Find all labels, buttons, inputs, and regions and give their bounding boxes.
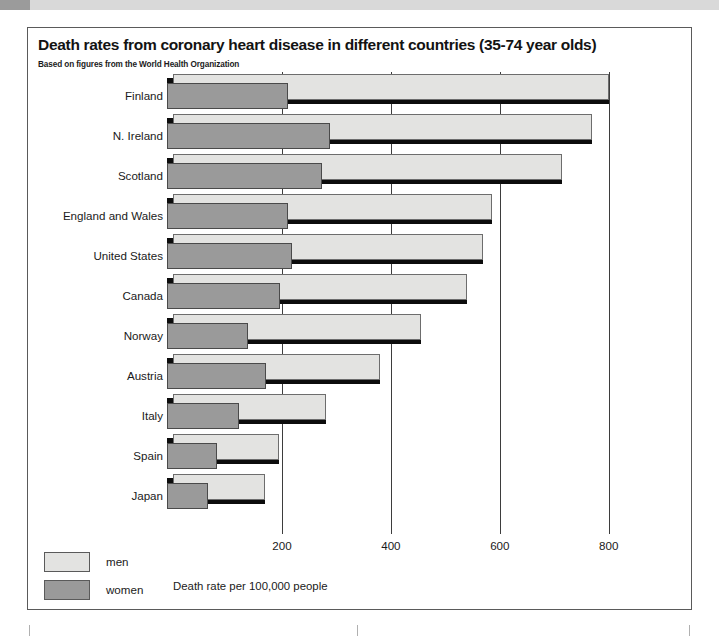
crop-tick xyxy=(689,625,690,636)
bar-women xyxy=(167,243,292,269)
category-label: Canada xyxy=(0,289,163,302)
bar-women xyxy=(167,443,217,469)
bar-women xyxy=(167,283,280,309)
category-label: England and Wales xyxy=(0,209,163,222)
category-label: Spain xyxy=(0,449,163,462)
x-tick-label: 200 xyxy=(272,539,291,552)
bar-women xyxy=(167,483,208,509)
bar-women xyxy=(167,363,266,389)
crop-tick xyxy=(29,625,30,636)
legend-label-women: women xyxy=(106,583,143,596)
page-top-band-marker xyxy=(0,0,30,10)
category-label: Norway xyxy=(0,329,163,342)
crop-tick xyxy=(357,625,358,636)
chart-row xyxy=(173,392,636,432)
bar-women xyxy=(167,83,288,109)
category-label: Scotland xyxy=(0,169,163,182)
chart-subtitle: Based on figures from the World Health O… xyxy=(38,60,239,69)
chart-row xyxy=(173,112,636,152)
bar-women xyxy=(167,163,322,189)
x-axis-title: Death rate per 100,000 people xyxy=(173,580,328,592)
chart-row xyxy=(173,152,636,192)
legend-label-men: men xyxy=(106,555,129,568)
category-label: Austria xyxy=(0,369,163,382)
chart-row xyxy=(173,192,636,232)
category-label: Japan xyxy=(0,489,163,502)
chart-row xyxy=(173,312,636,352)
bar-women xyxy=(167,403,239,429)
category-label: Italy xyxy=(0,409,163,422)
bar-women xyxy=(167,323,248,349)
plot-area xyxy=(173,72,636,534)
chart-row xyxy=(173,352,636,392)
category-label: United States xyxy=(0,249,163,262)
x-tick-label: 800 xyxy=(599,539,618,552)
chart-row xyxy=(173,72,636,112)
x-tick-label: 600 xyxy=(490,539,509,552)
legend-swatch-women xyxy=(44,580,90,600)
chart-row xyxy=(173,432,636,472)
chart-row xyxy=(173,232,636,272)
category-label: N. Ireland xyxy=(0,129,163,142)
x-tick-label: 400 xyxy=(381,539,400,552)
chart-title: Death rates from coronary heart disease … xyxy=(38,36,658,54)
legend-swatch-men xyxy=(44,552,90,572)
chart-row xyxy=(173,272,636,312)
bar-women xyxy=(167,203,288,229)
category-label: Finland xyxy=(0,89,163,102)
page-top-band xyxy=(0,0,719,10)
chart-row xyxy=(173,472,636,512)
bar-women xyxy=(167,123,330,149)
